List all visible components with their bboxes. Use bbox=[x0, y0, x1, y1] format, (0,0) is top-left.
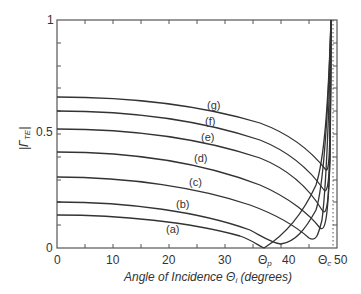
theta-c-label: Θc bbox=[318, 253, 331, 268]
plot-frame bbox=[57, 20, 337, 248]
label-g: (g) bbox=[207, 99, 220, 111]
y-tick-05: 0.5 bbox=[36, 125, 53, 139]
curve-b bbox=[57, 20, 331, 244]
x-ticks bbox=[85, 20, 309, 248]
chart: (a) (b) (c) (d) (e) (f) (g) 0 0.5 1 0 10… bbox=[0, 0, 361, 294]
curve-d bbox=[57, 20, 331, 229]
label-f: (f) bbox=[205, 115, 215, 127]
label-b: (b) bbox=[176, 198, 189, 210]
y-axis-title: |ΓTE| bbox=[17, 127, 32, 150]
x-tick-20: 20 bbox=[162, 253, 176, 267]
label-c: (c) bbox=[189, 176, 202, 188]
curves bbox=[57, 20, 331, 248]
curve-g bbox=[57, 20, 331, 170]
y-tick-0: 0 bbox=[46, 241, 53, 255]
x-tick-0: 0 bbox=[54, 253, 61, 267]
label-e: (e) bbox=[201, 131, 214, 143]
x-tick-40: 40 bbox=[282, 253, 296, 267]
x-tick-30: 30 bbox=[218, 253, 232, 267]
curve-a bbox=[57, 20, 331, 248]
label-d: (d) bbox=[194, 152, 207, 164]
x-tick-10: 10 bbox=[106, 253, 120, 267]
label-a: (a) bbox=[166, 223, 179, 235]
y-tick-1: 1 bbox=[47, 13, 54, 27]
y-ticks bbox=[57, 43, 337, 225]
x-tick-50: 50 bbox=[334, 253, 348, 267]
theta-p-label: Θp bbox=[258, 253, 272, 268]
x-axis-title: Angle of Incidence Θi (degrees) bbox=[123, 270, 292, 285]
